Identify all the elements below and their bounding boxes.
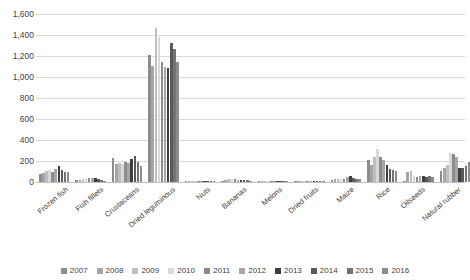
bar [431,177,434,182]
legend-item[interactable]: 2015 [347,267,374,275]
legend-item[interactable]: 2011 [204,267,230,275]
x-axis-label: Oilseeds [399,185,427,211]
legend-item[interactable]: 2008 [97,267,124,275]
x-axis-label: Melons [260,185,284,207]
bar-group [218,14,254,182]
legend-label: 2015 [356,267,374,275]
y-axis-tick-label: 1,200 [0,52,34,61]
y-axis-tick-label: 0 [0,178,34,187]
y-axis-tick-label: 1,400 [0,31,34,40]
x-axis-label: Maize [335,185,356,205]
y-axis-tick-label: 1,600 [0,10,34,19]
bar-group [291,14,327,182]
legend-label: 2010 [177,267,195,275]
bar [285,181,288,182]
x-axis-label: Rice [374,185,391,202]
bar [140,166,143,182]
bar [322,181,325,182]
legend-swatch [168,268,174,274]
y-axis-tick-label: 600 [0,115,34,124]
legend-swatch [204,268,210,274]
legend-item[interactable]: 2012 [239,267,266,275]
plot-area [36,14,465,182]
legend-label: 2014 [320,267,338,275]
legend-item[interactable]: 2009 [132,267,159,275]
bar-group [437,14,470,182]
bar-group [145,14,181,182]
bar-group [182,14,218,182]
legend-item[interactable]: 2016 [382,267,409,275]
legend-item[interactable]: 2007 [61,267,88,275]
x-axis-label: Dried fruits [286,185,320,215]
legend-item[interactable]: 2014 [311,267,338,275]
legend: 2007200820092010201120122013201420152016 [0,267,470,275]
legend-item[interactable]: 2010 [168,267,195,275]
bar-group [328,14,364,182]
x-axis-label: Nuts [195,185,213,202]
y-axis-tick-label: 800 [0,94,34,103]
legend-swatch [97,268,103,274]
y-axis-tick-label: 200 [0,157,34,166]
legend-label: 2012 [248,267,266,275]
bar-group [255,14,291,182]
legend-label: 2009 [141,267,159,275]
legend-label: 2013 [284,267,302,275]
legend-label: 2016 [391,267,409,275]
bar-chart: 1,6001,4001,2001,0008006004002000 Frozen… [0,0,470,280]
bar-groups [36,14,465,182]
bar [213,181,216,182]
legend-label: 2008 [106,267,124,275]
bar [395,171,398,182]
bar [249,181,252,182]
bar-group [364,14,400,182]
bar-group [109,14,145,182]
bar [358,179,361,182]
legend-swatch [347,268,353,274]
legend-label: 2007 [70,267,88,275]
legend-swatch [382,268,388,274]
legend-label: 2011 [213,267,230,275]
legend-swatch [61,268,67,274]
y-axis-tick-label: 1,000 [0,73,34,82]
bar-group [400,14,436,182]
x-axis-label: Frozen fish [35,185,69,216]
x-axis-label: Bananas [220,185,248,211]
legend-swatch [275,268,281,274]
bar-group [72,14,108,182]
bar [103,181,106,182]
legend-swatch [311,268,317,274]
bar [67,172,70,182]
bar [176,62,179,182]
bar-group [36,14,72,182]
legend-swatch [239,268,245,274]
x-axis-labels: Frozen fishFish filletsCrustaceansDried … [36,183,465,253]
legend-swatch [132,268,138,274]
legend-item[interactable]: 2013 [275,267,302,275]
x-axis-label: Fish fillets [74,185,105,213]
y-axis-tick-label: 400 [0,136,34,145]
